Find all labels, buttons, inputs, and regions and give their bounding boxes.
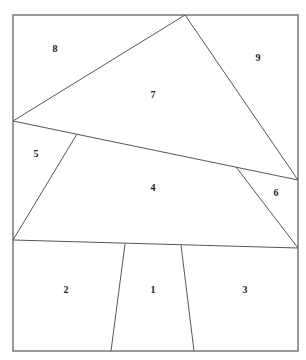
edge-left-slope — [13, 134, 77, 240]
region-label-4: 4 — [151, 182, 156, 193]
edge-apex-right — [185, 15, 298, 180]
edge-trunk-left — [111, 244, 125, 351]
edge-apex-left — [13, 15, 185, 121]
region-label-6: 6 — [274, 187, 279, 198]
edge-crown-base — [13, 121, 298, 180]
region-label-7: 7 — [151, 89, 156, 100]
edge-trunk-right — [181, 245, 194, 351]
region-labels: 123456789 — [34, 43, 279, 295]
tangram-region-diagram: 123456789 — [0, 0, 306, 360]
outer-frame — [13, 15, 298, 351]
region-label-5: 5 — [34, 148, 39, 159]
edge-canopy-base — [13, 240, 298, 248]
region-label-8: 8 — [53, 43, 58, 54]
region-label-1: 1 — [151, 284, 156, 295]
region-label-9: 9 — [256, 52, 261, 63]
region-label-2: 2 — [64, 284, 69, 295]
region-edges — [13, 15, 298, 351]
region-label-3: 3 — [243, 284, 248, 295]
edge-right-slope — [236, 167, 298, 248]
